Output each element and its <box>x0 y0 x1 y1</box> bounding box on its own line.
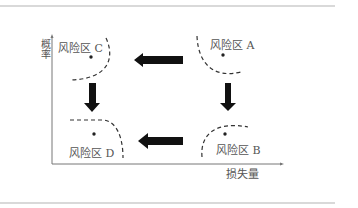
region-b: 风险区 B <box>202 126 261 157</box>
x-axis-arrowhead-icon <box>280 163 284 166</box>
region-c-point <box>89 55 92 58</box>
arrow-b-to-d-icon <box>138 133 183 149</box>
arrow-c-to-d-icon <box>84 83 100 112</box>
region-d: 风险区 D <box>69 120 123 160</box>
y-axis-label: 概率 <box>37 39 49 59</box>
region-a-label: 风险区 A <box>210 38 255 52</box>
region-a-point <box>221 53 224 56</box>
x-axis-label: 损失量 <box>226 167 259 181</box>
region-b-label: 风险区 B <box>216 143 261 157</box>
region-a: 风险区 A <box>197 36 255 74</box>
region-c: 风险区 C <box>58 38 110 80</box>
region-c-label: 风险区 C <box>58 41 103 55</box>
risk-zone-diagram: 损失量 风险区 C 风险区 A 风险区 D 风险区 B <box>0 0 358 208</box>
region-d-label: 风险区 D <box>69 146 114 160</box>
region-b-point <box>223 132 226 135</box>
arrow-a-to-b-icon <box>220 83 236 111</box>
region-d-point <box>92 132 95 135</box>
y-axis-arrowhead-icon <box>51 34 54 38</box>
arrow-a-to-c-icon <box>134 53 183 67</box>
